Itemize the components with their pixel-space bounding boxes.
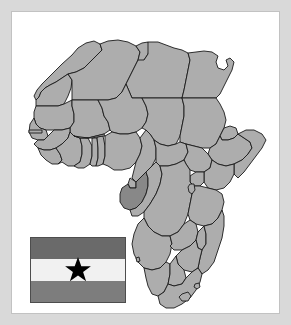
image-frame: [0, 0, 291, 325]
national-flag[interactable]: [30, 237, 126, 303]
country-egypt[interactable]: [182, 51, 234, 98]
flag-band-middle: [31, 259, 125, 280]
map-panel: [11, 11, 280, 314]
country-gambia[interactable]: [29, 130, 42, 133]
star-icon: [64, 256, 92, 284]
coastal-islet[interactable]: [136, 257, 140, 262]
country-eswatini[interactable]: [194, 283, 200, 289]
